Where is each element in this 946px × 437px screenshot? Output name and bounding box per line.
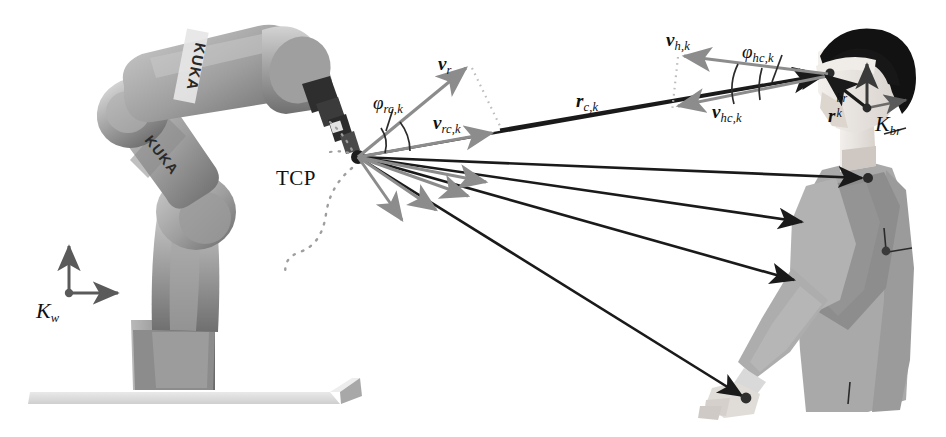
r-k-br-superscript: br: [836, 92, 847, 105]
world-frame-symbol: Κ: [36, 298, 51, 323]
v-h-k-subscript: h,k: [674, 39, 690, 53]
ray-hand: [358, 157, 742, 396]
v-h-k-label: vh,k: [666, 30, 690, 49]
world-frame-label: Κw: [36, 300, 59, 322]
body-frame-label: Κbr: [875, 113, 901, 135]
r-c-k-subscript: c,k: [583, 100, 598, 114]
figure-canvas: KUKA KUKA: [0, 0, 946, 437]
r-k-br-subscript: k: [836, 107, 847, 120]
world-frame-subscript: w: [51, 311, 60, 325]
ray-elbow: [358, 157, 794, 280]
v-rc-k-label: vrc,k: [433, 113, 461, 132]
v-rc-k-subscript: rc,k: [441, 122, 460, 136]
v-hc-k-subscript: hc,k: [720, 111, 741, 125]
r-c-k-vector: [500, 75, 822, 130]
body-frame-axes: [863, 64, 906, 112]
body-frame-subscript: br: [890, 124, 902, 138]
phi-rc-k-symbol: φ: [373, 92, 384, 113]
r-k-br-scripts: brk: [836, 99, 847, 124]
r-k-br-label: rbrk: [828, 99, 846, 125]
v-rc-k-arrow: [358, 133, 492, 157]
tcp-label: TCP: [276, 168, 316, 189]
phi-hc-k-symbol: φ: [742, 41, 753, 62]
phi-rc-k-subscript: rc,k: [384, 102, 403, 116]
v-r-subscript: r: [446, 63, 451, 77]
v-r-label: vr: [438, 54, 452, 73]
v-hc-k-label: vhc,k: [712, 102, 742, 121]
distance-vectors: [351, 68, 873, 403]
phi-hc-k-subscript: hc,k: [753, 51, 774, 65]
phi-hc-k-label: φhc,k: [742, 42, 774, 61]
r-c-k-label: rc,k: [576, 91, 598, 110]
world-frame-axes: [65, 246, 118, 297]
body-frame-symbol: Κ: [875, 111, 890, 136]
v-hc-k-vector: [678, 76, 828, 106]
r-k-br-symbol: r: [828, 105, 835, 126]
vector-annotation-layer: [0, 0, 946, 437]
phi-rc-k-label: φrc,k: [373, 93, 403, 112]
